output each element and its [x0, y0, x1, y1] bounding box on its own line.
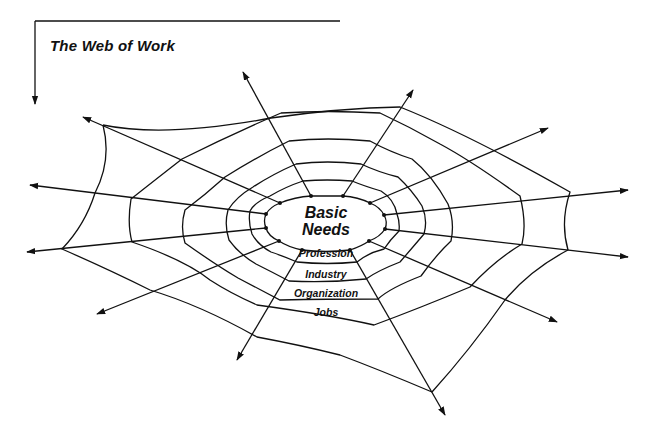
radial-right-1	[384, 190, 628, 215]
layer-label-profession: Profession	[266, 247, 386, 259]
diagram-title: The Web of Work	[50, 37, 175, 54]
center-label: Basic Needs	[286, 204, 366, 238]
radial-top-right	[343, 90, 413, 196]
radial-lower-right	[369, 241, 557, 322]
radial-right-2	[385, 229, 628, 257]
layer-label-organization: Organization	[266, 287, 386, 299]
layer-label-jobs: Jobs	[266, 306, 386, 318]
radial-left-1	[30, 185, 266, 214]
web-radials	[27, 72, 628, 415]
bracket-arrow-icon	[35, 21, 340, 104]
radial-top-left	[243, 72, 311, 196]
center-label-line2: Needs	[286, 221, 366, 238]
center-label-line1: Basic	[286, 204, 366, 221]
layer-label-industry: Industry	[266, 268, 386, 280]
